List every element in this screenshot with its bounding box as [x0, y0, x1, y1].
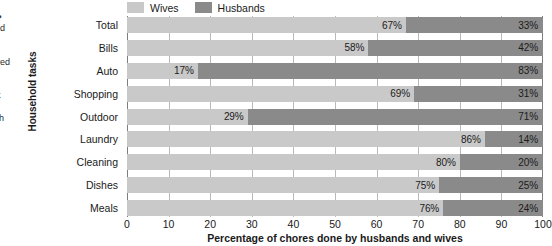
bar-segment-husbands: 33%: [406, 17, 543, 33]
margin-text-line: studied: [0, 23, 46, 34]
bar-row: 76%24%: [127, 200, 543, 216]
margin-text-line: the: [0, 101, 46, 112]
bar-label-husbands: 25%: [518, 180, 538, 191]
bar-segment-wives: 58%: [127, 40, 368, 56]
bar-label-wives: 80%: [436, 157, 456, 168]
bar-label-husbands: 24%: [518, 203, 538, 214]
bar-segment-wives: 69%: [127, 86, 414, 102]
bar-label-husbands: 20%: [518, 157, 538, 168]
bar-row: 69%31%: [127, 86, 543, 102]
margin-text-line: mployed: [0, 57, 46, 68]
margin-heading: vork?: [0, 0, 46, 23]
margin-text-lines: studiedvorkves.mployedrkinghighlyf mostt…: [0, 23, 46, 124]
x-axis-tick: 50: [329, 218, 341, 230]
x-axis-tick: 40: [288, 218, 300, 230]
x-axis-tick: 70: [412, 218, 424, 230]
bar-row: 86%14%: [127, 131, 543, 147]
x-axis-tick: 80: [454, 218, 466, 230]
bar-row: 58%42%: [127, 40, 543, 56]
bar-label-husbands: 42%: [518, 42, 538, 53]
legend-label: Husbands: [218, 2, 265, 14]
y-axis-category-labels: TotalBillsAutoShoppingOutdoorLaundryClea…: [56, 16, 123, 217]
bar-segment-husbands: 20%: [460, 154, 543, 170]
y-axis-label-outdoor: Outdoor: [56, 109, 123, 125]
y-axis-label-cleaning: Cleaning: [56, 154, 123, 170]
x-axis-tick: 100: [534, 218, 552, 230]
bar-label-husbands: 14%: [518, 134, 538, 145]
bar-label-husbands: 71%: [518, 111, 538, 122]
x-axis-tick: 60: [371, 218, 383, 230]
margin-text-line: es with: [0, 113, 46, 124]
x-axis-tick: 0: [124, 218, 130, 230]
x-axis-tick-labels: 0102030405060708090100: [127, 218, 543, 231]
bar-label-husbands: 33%: [518, 20, 538, 31]
bar-label-wives: 17%: [174, 65, 194, 76]
margin-text-line: rking: [0, 68, 46, 79]
margin-text-line: vork: [0, 34, 46, 45]
bar-label-wives: 67%: [382, 20, 402, 31]
bar-label-wives: 76%: [419, 203, 439, 214]
y-axis-label-shopping: Shopping: [56, 86, 123, 102]
margin-body-text: vork? studiedvorkves.mployedrkinghighlyf…: [0, 0, 46, 132]
margin-text-line: f most: [0, 90, 46, 101]
bar-label-wives: 86%: [461, 134, 481, 145]
bar-row: 80%20%: [127, 154, 543, 170]
bar-segment-wives: 29%: [127, 109, 248, 125]
bar-label-wives: 58%: [345, 42, 365, 53]
bar-segment-husbands: 14%: [485, 131, 543, 147]
bar-label-wives: 69%: [390, 88, 410, 99]
y-axis-label-bills: Bills: [56, 40, 123, 56]
bar-rows: 67%33%58%42%17%83%69%31%29%71%86%14%80%2…: [127, 16, 543, 217]
bar-segment-husbands: 83%: [198, 63, 543, 79]
bar-label-wives: 75%: [415, 180, 435, 191]
bar-label-husbands: 31%: [518, 88, 538, 99]
bar-segment-husbands: 24%: [443, 200, 543, 216]
bar-segment-wives: 67%: [127, 17, 406, 33]
y-axis-label-laundry: Laundry: [56, 131, 123, 147]
chart-legend: WivesHusbands: [127, 1, 281, 14]
bar-row: 29%71%: [127, 109, 543, 125]
x-axis-tick: 30: [246, 218, 258, 230]
bar-segment-wives: 80%: [127, 154, 460, 170]
bar-segment-husbands: 42%: [368, 40, 543, 56]
y-axis-label-meals: Meals: [56, 200, 123, 216]
husbands-swatch: [195, 2, 212, 13]
y-axis-label-auto: Auto: [56, 63, 123, 79]
bar-label-wives: 29%: [224, 111, 244, 122]
y-axis-title: Household tasks: [27, 27, 38, 157]
bar-row: 75%25%: [127, 177, 543, 193]
x-axis-tick: 10: [163, 218, 175, 230]
bar-segment-husbands: 25%: [439, 177, 543, 193]
bar-segment-wives: 17%: [127, 63, 198, 79]
bar-row: 17%83%: [127, 63, 543, 79]
bar-segment-wives: 75%: [127, 177, 439, 193]
x-axis-tick: 20: [204, 218, 216, 230]
x-axis-title: Percentage of chores done by husbands an…: [127, 232, 543, 244]
bar-segment-wives: 76%: [127, 200, 443, 216]
plot-area: 67%33%58%42%17%83%69%31%29%71%86%14%80%2…: [127, 16, 543, 217]
x-axis-tick: 90: [496, 218, 508, 230]
bar-segment-wives: 86%: [127, 131, 485, 147]
bar-label-husbands: 83%: [518, 65, 538, 76]
bar-segment-husbands: 71%: [248, 109, 543, 125]
margin-text-line: highly: [0, 79, 46, 90]
y-axis-label-total: Total: [56, 17, 123, 33]
y-axis-label-dishes: Dishes: [56, 177, 123, 193]
bar-segment-husbands: 31%: [414, 86, 543, 102]
wives-swatch: [127, 2, 144, 13]
margin-text-line: ves.: [0, 45, 46, 56]
bar-row: 67%33%: [127, 17, 543, 33]
legend-label: Wives: [150, 2, 179, 14]
